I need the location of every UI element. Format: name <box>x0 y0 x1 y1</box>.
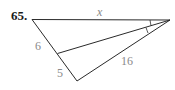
label-5: 5 <box>57 66 63 80</box>
triangle-outline <box>32 20 170 82</box>
top-side <box>32 20 170 21</box>
angle-arc-lower <box>146 28 148 34</box>
label-6: 6 <box>35 39 41 53</box>
angle-bisector <box>58 20 171 54</box>
angle-arc-upper <box>150 20 151 26</box>
triangle-diagram: x 6 5 16 <box>0 0 175 90</box>
label-x: x <box>96 5 103 19</box>
label-16: 16 <box>121 54 133 68</box>
right-side <box>77 20 170 81</box>
